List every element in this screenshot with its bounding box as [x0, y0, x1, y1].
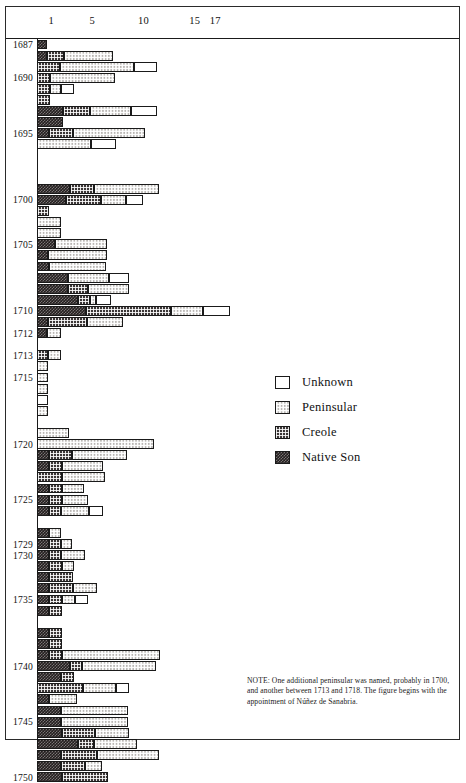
- bar-segment-native-son: [37, 128, 49, 138]
- bar-row: [6, 472, 459, 483]
- bar-row: [6, 228, 459, 239]
- bar-row: [6, 583, 459, 594]
- bar-segment-native-son: [37, 184, 70, 194]
- bar-row: [6, 61, 459, 72]
- bar-segment-peninsular: [49, 262, 105, 272]
- x-tick-label-10: 10: [138, 15, 149, 26]
- bar-segment-native-son: [37, 317, 48, 327]
- bar-segment-creole: [49, 539, 60, 549]
- bar-segment-creole: [49, 461, 61, 471]
- bar-row: [6, 261, 459, 272]
- bar-row: 1720: [6, 439, 459, 450]
- bar-segment-peninsular: [61, 550, 86, 560]
- bar-row: [6, 183, 459, 194]
- bar-segment-native-son: [37, 484, 49, 494]
- legend-swatch-icon: [275, 426, 290, 439]
- bar-segment-peninsular: [62, 484, 85, 494]
- bar-segment-peninsular: [50, 73, 115, 83]
- y-tick-label-1740: 1740: [6, 661, 33, 672]
- bar-segment-creole: [63, 106, 91, 116]
- bar-row: [6, 428, 459, 439]
- bar-segment-peninsular: [37, 217, 61, 227]
- y-tick-label-1750: 1750: [6, 772, 33, 783]
- bar-segment-creole: [78, 295, 90, 305]
- bar-segment-peninsular: [62, 495, 89, 505]
- bar-segment-native-son: [37, 273, 68, 283]
- bar-segment-peninsular: [37, 361, 48, 371]
- bar-segment-peninsular: [73, 583, 98, 593]
- bar-segment-unknown: [96, 295, 110, 305]
- bar-row: [6, 83, 459, 94]
- bar-segment-native-son: [37, 461, 49, 471]
- bar-segment-peninsular: [87, 317, 123, 327]
- bar-row: [6, 139, 459, 150]
- bar-segment-native-son: [37, 550, 49, 560]
- bar-row: [6, 572, 459, 583]
- bar-segment-peninsular: [72, 450, 127, 460]
- bar-segment-creole: [61, 750, 98, 760]
- bar-segment-unknown: [116, 683, 129, 693]
- bar-row: [6, 161, 459, 172]
- bar-segment-native-son: [37, 40, 47, 50]
- bar-segment-peninsular: [85, 761, 101, 771]
- plot-area: 1687169016951700170517101712171317151720…: [6, 39, 459, 739]
- bar-segment-native-son: [37, 750, 61, 760]
- bar-row: [6, 561, 459, 572]
- bar-row: 1695: [6, 128, 459, 139]
- bar-row: [6, 627, 459, 638]
- y-tick-label-1695: 1695: [6, 128, 33, 139]
- bar-segment-peninsular: [62, 461, 103, 471]
- bar-segment-native-son: [37, 51, 47, 61]
- bar-segment-creole: [37, 472, 62, 482]
- bar-segment-native-son: [37, 772, 62, 782]
- bar-segment-creole: [49, 606, 61, 616]
- bar-segment-creole: [49, 639, 61, 649]
- bar-segment-peninsular: [61, 717, 129, 727]
- bar-segment-unknown: [91, 139, 116, 149]
- bar-segment-creole: [37, 95, 50, 105]
- bar-segment-peninsular: [37, 228, 61, 238]
- bar-segment-native-son: [37, 306, 86, 316]
- bar-row: 1750: [6, 772, 459, 783]
- bar-segment-native-son: [37, 572, 49, 582]
- bar-row: [6, 206, 459, 217]
- bar-segment-creole: [49, 572, 73, 582]
- bar-segment-peninsular: [37, 373, 48, 383]
- bar-segment-native-son: [37, 628, 49, 638]
- bar-row: [6, 527, 459, 538]
- bar-segment-peninsular: [97, 750, 159, 760]
- bar-segment-peninsular: [94, 739, 137, 749]
- bar-row: 1713: [6, 350, 459, 361]
- bar-segment-peninsular: [37, 428, 69, 438]
- bar-row: 1712: [6, 328, 459, 339]
- bar-segment-creole: [70, 661, 82, 671]
- y-tick-label-1720: 1720: [6, 439, 33, 450]
- x-tick-label-5: 5: [89, 15, 95, 26]
- bar-segment-peninsular: [37, 139, 91, 149]
- bar-segment-creole: [49, 650, 61, 660]
- bar-row: [6, 761, 459, 772]
- legend: UnknownPeninsularCreoleNative Son: [275, 370, 360, 470]
- bar-row: [6, 272, 459, 283]
- bar-segment-unknown: [134, 62, 157, 72]
- bar-segment-creole: [37, 683, 83, 693]
- bar-segment-unknown: [61, 84, 74, 94]
- legend-label: Unknown: [302, 375, 353, 390]
- bar-segment-creole: [49, 450, 72, 460]
- y-tick-label-1735: 1735: [6, 594, 33, 605]
- bar-row: 1705: [6, 239, 459, 250]
- y-tick-label-1729: 1729: [6, 539, 33, 550]
- bar-row: 1715: [6, 372, 459, 383]
- y-tick-label-1705: 1705: [6, 239, 33, 250]
- bar-segment-peninsular: [37, 406, 48, 416]
- bar-row: [6, 50, 459, 61]
- bar-segment-peninsular: [49, 694, 77, 704]
- bar-segment-creole: [49, 628, 61, 638]
- bar-segment-peninsular: [90, 106, 131, 116]
- legend-swatch-icon: [275, 376, 290, 389]
- bar-row: [6, 250, 459, 261]
- bar-segment-native-son: [37, 250, 48, 260]
- bar-row: 1725: [6, 494, 459, 505]
- x-tick-label-1: 1: [48, 15, 54, 26]
- bar-segment-creole: [49, 583, 73, 593]
